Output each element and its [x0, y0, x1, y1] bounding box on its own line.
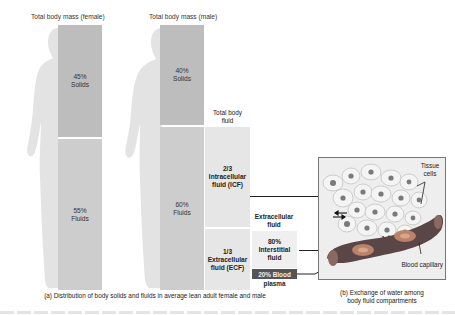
male-solids-percent: 40% — [173, 67, 191, 75]
blood-capillary-label: Blood capillary — [383, 261, 443, 269]
ecf-label-line2: fluid (ECF) — [208, 264, 248, 272]
male-fluids-percent: 60% — [173, 201, 191, 209]
icf-label-line1: Intracellular — [209, 173, 246, 181]
male-fluids-bar: 60% Fluids — [160, 127, 204, 290]
interstitial-label-line2: fluid — [259, 254, 291, 262]
female-solids-label: Solids — [71, 81, 89, 89]
tissue-cells-line1: Tissue — [417, 162, 443, 170]
male-solids-bar: 40% Solids — [160, 25, 204, 125]
male-fluids-label: Fluids — [173, 209, 191, 217]
ecf-fraction: 1/3 — [208, 248, 248, 256]
caption-b: (b) Exchange of water among body fluid c… — [316, 289, 448, 305]
tissue-cells-line2: cells — [417, 170, 443, 178]
female-fluids-label: Fluids — [71, 215, 89, 223]
ecf-title-line1: Extracellular — [249, 213, 299, 221]
male-title: Total body mass (male) — [149, 13, 217, 20]
water-exchange-panel: Tissue cells Blood capillary — [318, 157, 446, 280]
female-title: Total body mass (female) — [31, 13, 105, 20]
ecf-label-line1: Extracellular — [208, 256, 248, 264]
interstitial-label-line1: Interstitial — [259, 246, 291, 254]
female-solids-percent: 45% — [71, 73, 89, 81]
tbf-title-line1: Total body — [205, 109, 250, 117]
total-body-fluid-title: Total body fluid — [205, 109, 250, 124]
extracellular-fluid-title: Extracellular fluid — [249, 213, 299, 228]
female-silhouette-icon — [8, 26, 60, 292]
female-fluids-percent: 55% — [71, 207, 89, 215]
male-silhouette-icon — [108, 26, 162, 292]
clipped-footer-text — [0, 311, 455, 314]
female-solids-bar: 45% Solids — [58, 25, 102, 137]
icf-fraction: 2/3 — [209, 165, 246, 173]
tbf-title-line2: fluid — [205, 117, 250, 125]
caption-a: (a) Distribution of body solids and flui… — [20, 292, 290, 300]
icf-label-line2: fluid (ICF) — [209, 181, 246, 189]
interstitial-fluid-box: 80% Interstitial fluid — [252, 231, 297, 268]
ecf-title-line2: fluid — [249, 221, 299, 229]
ecf-box: 1/3 Extracellular fluid (ECF) — [205, 229, 250, 290]
tissue-cells-label: Tissue cells — [417, 162, 443, 177]
icf-box: 2/3 Intracellular fluid (ICF) — [205, 127, 250, 227]
caption-b-line2: body fluid compartments — [316, 297, 448, 305]
female-fluids-bar: 55% Fluids — [58, 139, 102, 290]
blood-plasma-box: 20% Blood — [252, 269, 297, 279]
blood-plasma-label: plasma — [252, 280, 297, 288]
male-solids-label: Solids — [173, 75, 191, 83]
interstitial-percent: 80% — [259, 238, 291, 246]
caption-b-line1: (b) Exchange of water among — [316, 289, 448, 297]
